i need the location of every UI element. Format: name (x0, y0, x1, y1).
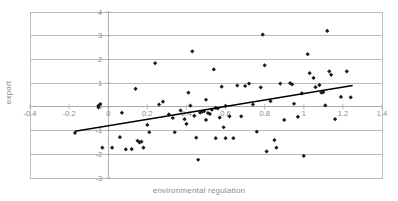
svg-text:1.2: 1.2 (338, 109, 348, 118)
svg-text:1: 1 (98, 79, 102, 88)
chart-canvas: -0.4-0.200.20.40.60.811.21.4 -3-2-101234 (0, 0, 398, 201)
gridlines (30, 12, 382, 178)
svg-text:0.2: 0.2 (142, 109, 152, 118)
plot-frame (30, 12, 382, 178)
scatter-chart: -0.4-0.200.20.40.60.811.21.4 -3-2-101234… (0, 0, 398, 201)
axis-lines (30, 12, 382, 178)
svg-text:2: 2 (98, 55, 102, 64)
svg-text:-3: -3 (96, 174, 103, 183)
data-points (73, 29, 353, 162)
svg-text:-0.2: -0.2 (63, 109, 76, 118)
trendline (75, 86, 353, 132)
svg-text:4: 4 (98, 8, 102, 17)
svg-text:-2: -2 (96, 150, 103, 159)
y-axis-title: export (4, 68, 13, 118)
svg-text:3: 3 (98, 31, 102, 40)
svg-text:0: 0 (106, 109, 110, 118)
svg-text:0.8: 0.8 (259, 109, 269, 118)
svg-text:-0.4: -0.4 (24, 109, 37, 118)
x-axis-title: environmental regulation (0, 186, 398, 195)
svg-text:1.4: 1.4 (377, 109, 387, 118)
svg-text:1: 1 (302, 109, 306, 118)
